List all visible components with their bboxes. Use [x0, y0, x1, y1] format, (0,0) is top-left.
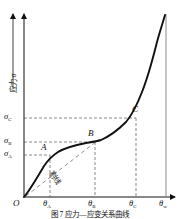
chart-canvas: [0, 0, 179, 219]
y-tick-sigma-c: σC: [4, 112, 12, 121]
x-tick-theta-c: θC: [129, 199, 137, 208]
point-label-c: C: [132, 105, 138, 114]
x-tick-theta-w: θw: [159, 199, 167, 208]
stress-strain-curve: [24, 15, 165, 197]
figure-caption: 图 7 应力—应变关系曲线: [0, 208, 179, 219]
point-label-a: A: [41, 143, 47, 152]
x-tick-theta-a: θA: [43, 199, 51, 208]
point-label-b: B: [88, 129, 94, 138]
origin-label: O: [13, 199, 20, 208]
figure-container: 应力 σ O σC σB σA θA θB θC θw A B C 割线 图 7…: [0, 0, 179, 219]
y-tick-sigma-a: σA: [4, 149, 12, 158]
y-axis-label: 应力 σ: [7, 56, 18, 112]
x-tick-theta-b: θB: [88, 199, 96, 208]
y-tick-sigma-b: σB: [4, 136, 12, 145]
